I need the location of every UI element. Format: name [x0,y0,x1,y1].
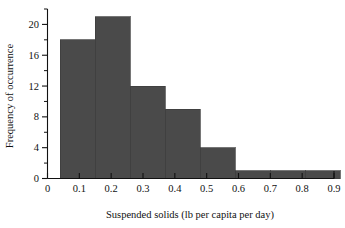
x-axis-tick-label: 0.9 [327,183,340,194]
x-axis-label: Suspended solids (lb per capita per day) [106,209,274,221]
x-axis-tick-label: 0 [45,183,50,194]
histogram-bar [270,171,305,179]
histogram-bar [305,171,340,179]
y-axis-tick-label: 8 [34,111,39,122]
histogram-bar [60,40,95,179]
histogram-bar [165,109,200,178]
x-axis-tick-label: 0.3 [136,183,149,194]
x-axis-tick-label: 0.6 [232,183,245,194]
y-axis-tick-label: 12 [29,81,40,92]
x-axis-tick-label: 0.1 [73,183,86,194]
histogram-figure: 048121620 00.10.20.30.40.50.60.70.80.9 S… [0,0,345,228]
histogram-bar [200,148,235,179]
x-axis-tick-label: 0.5 [200,183,213,194]
histogram-bar [235,171,270,179]
histogram-bar [130,86,165,178]
y-axis-tick-label: 0 [34,173,39,184]
x-axis-tick-label: 0.2 [105,183,118,194]
histogram-bar [95,17,130,179]
y-axis-tick-label: 4 [34,142,40,153]
y-axis-label: Frequency of occurrence [4,43,15,148]
x-axis-tick-label: 0.8 [296,183,309,194]
y-axis-tick-label: 16 [29,50,40,61]
chart-canvas: 048121620 00.10.20.30.40.50.60.70.80.9 S… [0,0,345,228]
x-axis-tick-label: 0.7 [264,183,277,194]
y-axis-tick-label: 20 [29,19,40,30]
x-axis-tick-label: 0.4 [168,183,182,194]
